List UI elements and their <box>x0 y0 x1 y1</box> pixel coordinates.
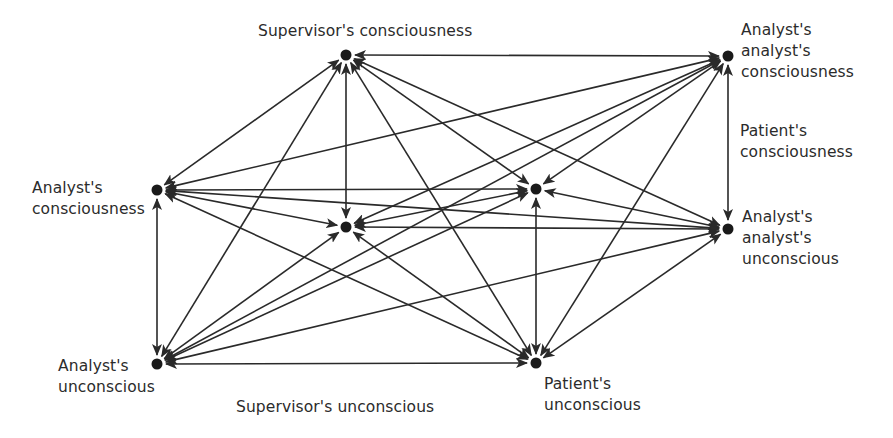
edge-sup_c-aa_c <box>355 55 719 56</box>
edge-an_u-pat_u <box>166 363 527 364</box>
node-an_c <box>152 185 163 196</box>
edges-layer <box>157 55 728 364</box>
label-patients-unconscious: Patient's unconscious <box>544 374 641 416</box>
edge-sup_u-an_u <box>164 232 338 358</box>
node-pat_c <box>531 184 542 195</box>
node-aa_u <box>723 224 734 235</box>
label-supervisors-unconscious: Supervisor's unconscious <box>236 397 434 418</box>
label-supervisors-consciousness: Supervisor's consciousness <box>258 21 472 42</box>
edge-an_c-pat_c <box>166 189 527 190</box>
label-analysts-analysts-consciousness: Analyst's analyst's consciousness <box>741 20 854 83</box>
node-pat_u <box>531 358 542 369</box>
edge-sup_c-an_c <box>164 60 338 185</box>
label-analysts-analysts-unconscious: Analyst's analyst's unconscious <box>742 207 839 270</box>
node-sup_u <box>341 222 352 233</box>
edge-sup_u-pat_u <box>353 232 528 358</box>
edge-sup_c-pat_c <box>353 60 528 184</box>
label-analysts-unconscious: Analyst's unconscious <box>58 356 155 398</box>
edge-aa_c-pat_c <box>543 61 720 184</box>
edge-aa_u-pat_u <box>543 234 720 358</box>
label-patients-consciousness: Patient's consciousness <box>740 121 853 163</box>
node-aa_c <box>723 51 734 62</box>
node-sup_c <box>341 50 352 61</box>
edge-aa_c-an_c <box>166 58 719 188</box>
edge-sup_u-aa_u <box>355 227 719 229</box>
edge-pat_c-sup_u <box>355 191 527 225</box>
label-analysts-consciousness: Analyst's consciousness <box>32 178 145 220</box>
